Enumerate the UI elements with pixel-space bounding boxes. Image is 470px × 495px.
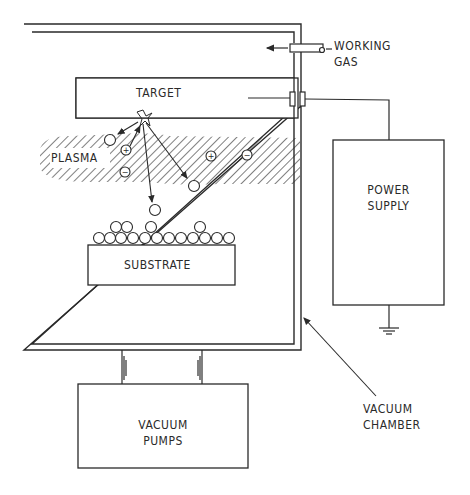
sputtered-atom xyxy=(150,205,161,216)
working-gas-label-line1: WORKING xyxy=(334,39,391,54)
negative-ion-sign: − xyxy=(122,168,129,177)
sputtered-atom xyxy=(105,135,116,146)
target-label: TARGET xyxy=(136,86,181,101)
pump-connection xyxy=(122,350,202,384)
working-gas-inlet xyxy=(267,44,332,53)
power-supply-box xyxy=(333,140,444,305)
vacuum-pumps-label-line1: VACUUM xyxy=(78,418,248,433)
power-supply-label-line1: POWER xyxy=(333,183,444,198)
substrate-label: SUBSTRATE xyxy=(124,258,191,273)
vacuum-chamber-label-line1: VACUUM xyxy=(363,402,412,417)
vacuum-pumps-label-line2: PUMPS xyxy=(78,434,248,449)
working-gas-label-line2: GAS xyxy=(334,55,358,70)
vacuum-chamber-label-line2: CHAMBER xyxy=(363,418,421,433)
positive-ion-sign: + xyxy=(208,152,215,161)
positive-ion-sign: + xyxy=(123,146,130,155)
vacuum-chamber-pointer xyxy=(304,318,376,396)
power-supply-label-line2: SUPPLY xyxy=(333,199,444,214)
sputtered-atom xyxy=(189,181,200,192)
vacuum-chamber xyxy=(24,24,301,350)
negative-ion-sign: − xyxy=(244,151,251,160)
plasma-label: PLASMA xyxy=(51,151,98,166)
ground-icon xyxy=(379,305,399,334)
